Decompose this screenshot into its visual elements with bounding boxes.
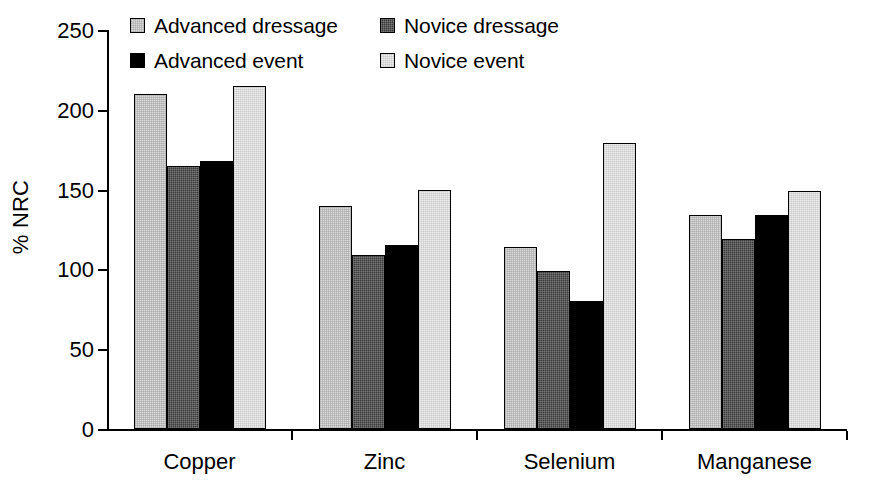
x-axis-tick-mark — [291, 431, 293, 440]
bar-selenium-advanced-dressage — [504, 247, 537, 429]
bar-selenium-novice-event — [603, 143, 636, 429]
bar-manganese-advanced-dressage — [689, 215, 722, 429]
bar-group-manganese: Manganese — [662, 30, 847, 429]
y-axis-tick-mark — [98, 349, 107, 351]
y-axis-tick-mark — [98, 30, 107, 32]
bar-zinc-novice-dressage — [352, 255, 385, 429]
bar-group-selenium: Selenium — [477, 30, 662, 429]
x-axis-tick-label: Copper — [163, 451, 235, 473]
bar-group-zinc: Zinc — [292, 30, 477, 429]
bar-selenium-advanced-event — [570, 301, 603, 429]
x-axis-tick-label: Manganese — [697, 451, 812, 473]
bar-copper-advanced-dressage — [134, 94, 167, 429]
y-axis-title-text: % NRC — [8, 180, 34, 254]
y-axis-title: % NRC — [4, 0, 38, 434]
x-axis-tick-mark — [661, 431, 663, 440]
bar-zinc-advanced-dressage — [319, 206, 352, 429]
bar-copper-novice-event — [233, 86, 266, 429]
x-axis-tick-mark — [476, 431, 478, 440]
y-axis-tick-label: 200 — [57, 100, 94, 122]
bar-manganese-advanced-event — [755, 215, 788, 429]
bar-manganese-novice-dressage — [722, 239, 755, 429]
x-axis-tick-label: Zinc — [364, 451, 406, 473]
plot-area: 050100150200250 CopperZincSeleniumMangan… — [107, 30, 847, 431]
bar-group-copper: Copper — [107, 30, 292, 429]
bar-selenium-novice-dressage — [537, 271, 570, 429]
y-axis-tick-label: 0 — [82, 419, 94, 441]
bar-chart-figure: Advanced dressage Novice dressage Advanc… — [0, 0, 886, 504]
y-axis-tick-mark — [98, 429, 107, 431]
bar-copper-novice-dressage — [167, 166, 200, 429]
y-axis-tick-label: 50 — [70, 339, 94, 361]
bar-manganese-novice-event — [788, 191, 821, 429]
y-axis-tick-mark — [98, 269, 107, 271]
y-axis-tick-mark — [98, 190, 107, 192]
x-axis-tick-mark — [846, 431, 848, 440]
bar-zinc-novice-event — [418, 190, 451, 429]
y-axis-tick-label: 100 — [57, 259, 94, 281]
y-axis-tick-label: 250 — [57, 20, 94, 42]
y-axis-tick-label: 150 — [57, 180, 94, 202]
x-axis-tick-label: Selenium — [524, 451, 616, 473]
y-axis-tick-mark — [98, 110, 107, 112]
bar-copper-advanced-event — [200, 161, 233, 429]
bar-zinc-advanced-event — [385, 245, 418, 429]
